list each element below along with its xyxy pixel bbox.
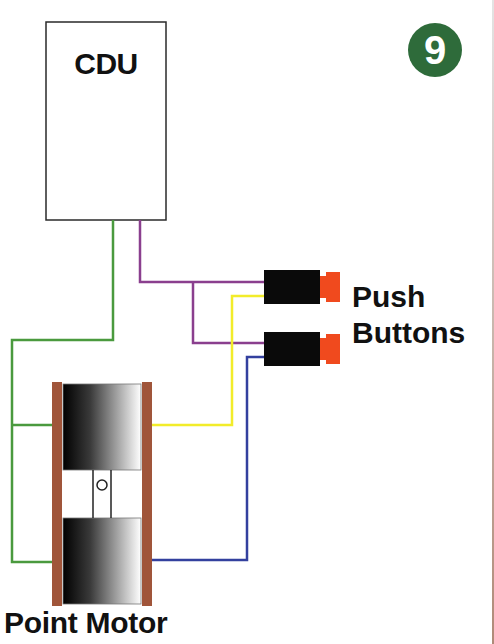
push-button-1-cap — [326, 272, 340, 302]
push-buttons-label-line2: Buttons — [352, 315, 465, 351]
motor-frame-left — [52, 382, 62, 606]
point-motor — [52, 382, 152, 606]
push-buttons-label-line1: Push — [352, 279, 465, 315]
push-button-1 — [264, 270, 340, 304]
purple-wire — [140, 220, 265, 343]
push-button-1-body — [264, 270, 320, 304]
blue-wire — [152, 357, 265, 560]
wiring-diagram: CDU 9 Push Buttons Point Motor — [0, 0, 494, 644]
push-buttons-label: Push Buttons — [352, 279, 465, 351]
step-number: 9 — [424, 28, 446, 73]
push-button-2-body — [264, 332, 320, 366]
cdu-label: CDU — [46, 47, 166, 81]
push-button-2 — [264, 332, 340, 366]
motor-frame-right — [142, 382, 152, 606]
step-number-badge: 9 — [408, 23, 462, 77]
motor-coil-upper — [63, 384, 141, 470]
push-button-2-cap — [326, 334, 340, 364]
motor-coil-lower — [63, 518, 141, 604]
plunger-pin — [97, 480, 107, 490]
point-motor-label: Point Motor — [4, 606, 167, 640]
